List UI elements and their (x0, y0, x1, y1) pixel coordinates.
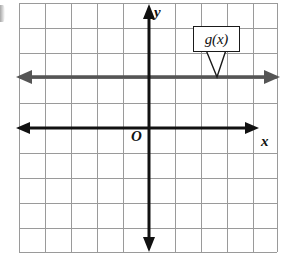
x-axis-left-arrowhead (16, 122, 30, 134)
graph-figure: g(x) y x O (0, 0, 282, 259)
gx-left-arrowhead (16, 70, 32, 84)
gx-callout-label: g(x) (205, 32, 228, 47)
gx-callout-pointer-icon (206, 50, 226, 77)
gx-callout-box: g(x) (193, 26, 240, 52)
gx-right-arrowhead (264, 70, 280, 84)
x-axis-label: x (261, 134, 269, 149)
y-axis-label: y (154, 5, 161, 20)
origin-label: O (131, 129, 142, 144)
x-axis-right-arrowhead (245, 122, 259, 134)
y-axis-bottom-arrowhead (143, 237, 155, 252)
